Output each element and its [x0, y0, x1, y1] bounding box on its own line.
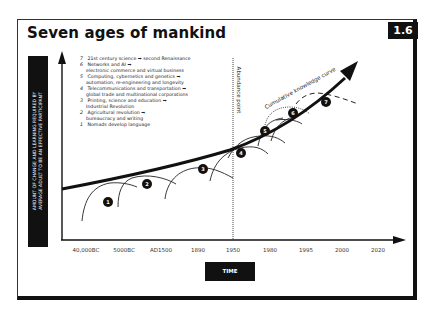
svg-text:6: 6: [291, 110, 295, 116]
age-marker-2: 2: [142, 179, 152, 189]
svg-text:3: 3: [201, 166, 205, 172]
age-marker-6: 6: [288, 108, 298, 118]
age-marker-5: 5: [260, 126, 270, 136]
x-axis: [61, 236, 406, 244]
age-marker-1: 1: [103, 197, 113, 207]
x-tick-1995: 1995: [299, 247, 313, 253]
x-tick-5000bc: 5000BC: [113, 247, 135, 253]
svg-text:7: 7: [324, 99, 328, 105]
curve-arrowhead: [340, 61, 358, 81]
age-marker-4: 4: [236, 148, 246, 158]
svg-text:4: 4: [239, 150, 243, 156]
x-tick-1950: 1950: [226, 247, 240, 253]
x-axis-label: TIME: [205, 262, 255, 281]
abundance-point-label: Abundance point: [236, 67, 242, 114]
x-tick-ad1500: AD1500: [150, 247, 172, 253]
svg-text:5: 5: [263, 128, 267, 134]
x-tick-40000bc: 40,000BC: [73, 247, 100, 253]
svg-text:1: 1: [106, 199, 110, 205]
svg-text:2: 2: [145, 181, 149, 187]
ages-legend: 7 21st century science ➡ second Renaissa…: [80, 56, 191, 128]
age-marker-7: 7: [321, 97, 331, 107]
x-tick-1980: 1980: [263, 247, 277, 253]
age-marker-3: 3: [198, 164, 208, 174]
x-tick-1890: 1890: [191, 247, 205, 253]
x-tick-2000: 2000: [335, 247, 349, 253]
y-axis: [58, 51, 66, 240]
legend-item-1: 1 Nomads develop language: [80, 122, 191, 128]
x-tick-2020: 2020: [371, 247, 385, 253]
